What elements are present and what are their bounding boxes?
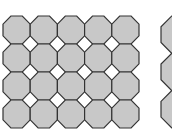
main-octagon-grid: [3, 16, 139, 128]
octagon-tile: [3, 16, 30, 44]
octagon-tile: [30, 100, 57, 128]
octagon-tile: [161, 91, 172, 128]
octagon-tile: [30, 44, 57, 72]
octagon-tile: [112, 16, 139, 44]
octagon-tile: [112, 100, 139, 128]
octagon-tile: [57, 100, 84, 128]
octagon-tile: [3, 72, 30, 100]
octagon-tile: [85, 72, 112, 100]
octagon-tile: [30, 72, 57, 100]
octagon-tile: [112, 44, 139, 72]
octagon-tile: [3, 100, 30, 128]
side-octagon-column: [161, 16, 172, 128]
octagon-tile: [57, 72, 84, 100]
octagon-tile: [85, 16, 112, 44]
octagon-tile: [85, 100, 112, 128]
octagon-tile: [161, 53, 172, 90]
octagon-tile: [30, 16, 57, 44]
octagon-tile: [3, 44, 30, 72]
octagon-tile: [85, 44, 112, 72]
octagon-tile: [57, 44, 84, 72]
octagon-tile: [161, 16, 172, 53]
octagon-tile: [112, 72, 139, 100]
octagon-tile: [57, 16, 84, 44]
octagon-tiling-diagram: [0, 0, 172, 135]
